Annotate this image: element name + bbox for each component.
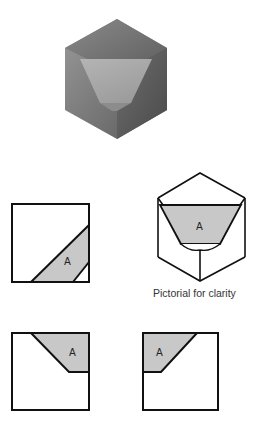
pictorial-view: A Pictorial for clarity bbox=[153, 173, 245, 299]
shaded-cube bbox=[65, 19, 167, 139]
pictorial-caption: Pictorial for clarity bbox=[153, 287, 237, 299]
view-bottom-left: A bbox=[12, 333, 89, 410]
face-label-a: A bbox=[69, 347, 76, 358]
view-bottom-right: A bbox=[143, 333, 218, 410]
face-label-a: A bbox=[64, 256, 71, 267]
face-label-a: A bbox=[196, 221, 203, 232]
face-label-a: A bbox=[156, 347, 163, 358]
orthographic-views-diagram: A A Pictorial for clarity A A bbox=[0, 0, 274, 425]
view-top-left: A bbox=[12, 204, 89, 282]
